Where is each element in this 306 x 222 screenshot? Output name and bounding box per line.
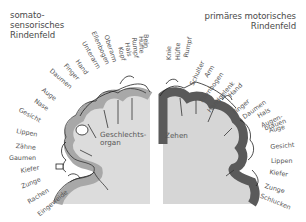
title-line: sensorisches [10,20,64,30]
sensory-label-gaumen: Gaumen [9,154,36,162]
sensory-cortex-title: somato- sensorisches Rindenfeld [10,10,64,40]
homunculus-diagram: somato- sensorisches Rindenfeld primäres… [0,0,306,222]
title-line: Rindenfeld [205,21,296,31]
sensory-label-zaehne: Zähne [15,142,36,152]
sensory-genital-label: Geschlechts- organ [100,131,146,147]
motor-label-huefte: Hüfte [174,43,182,60]
motor-label-lippen: Lippen [271,157,292,165]
motor-cortex-title: primäres motorisches Rindenfeld [205,11,296,31]
title-line: Rindenfeld [10,30,64,40]
motor-label-knie: Knie [165,46,173,60]
label-line: organ [100,139,146,147]
title-line: primäres motorisches [205,11,296,21]
motor-toes-label: Zehen [165,132,188,140]
title-line: somato- [10,10,64,20]
